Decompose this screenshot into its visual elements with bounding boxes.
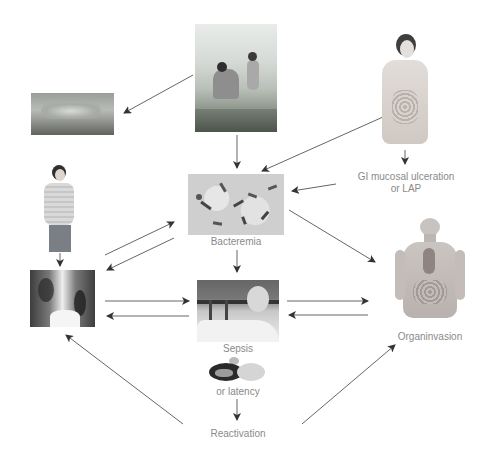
arrow-reactivation-to-lung (66, 335, 183, 424)
man-breathing-image (40, 165, 80, 252)
bacteremia-label: Bacteremia (188, 236, 284, 248)
patient-in-bed-image (197, 280, 279, 342)
skin-lesion-image (31, 93, 114, 135)
sleeping-person-image (207, 357, 265, 383)
arrow-lung-to-bacteremia (105, 222, 174, 255)
outdoor-farming-scene-image (195, 24, 277, 132)
arrow-ingestion-to-bacteremia (262, 117, 383, 171)
arrow-environment-to-skin (124, 75, 193, 113)
reactivation-label: Reactivation (187, 428, 289, 440)
arrow-bacteremia-to-lung (107, 238, 174, 270)
arrow-reactivation-to-organ (302, 345, 395, 424)
human-anatomy-image (395, 218, 465, 322)
arrow-gi-to-bacteremia (292, 184, 336, 191)
arrow-bacteremia-to-organ (289, 210, 375, 262)
bacteria-micrograph-image (188, 174, 284, 235)
gi-mucosal-ulceration-label: GI mucosal ulceration or LAP (352, 171, 460, 195)
chest-xray-image (30, 270, 95, 327)
woman-eating-digestive-tract-image (378, 34, 434, 146)
organ-invasion-label: Organinvasion (382, 331, 478, 343)
latency-label: or latency (197, 386, 279, 398)
sepsis-label: Sepsis (197, 343, 279, 355)
